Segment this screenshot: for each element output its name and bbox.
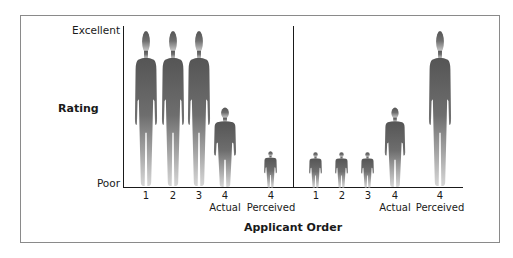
person-figure-right-4-perceived [427, 30, 453, 188]
y-axis-title: Rating [58, 102, 99, 115]
y-axis-top-label: Excellent [60, 24, 120, 36]
person-figure-right-3 [360, 152, 375, 188]
x-tick-right-4-actual: 4Actual [375, 190, 415, 214]
person-figure-left-4-perceived [263, 151, 278, 188]
x-axis-title: Applicant Order [243, 221, 343, 234]
person-figure-right-1 [308, 152, 323, 188]
x-tick-right-4-perceived: 4Perceived [414, 190, 466, 214]
person-figure-right-4-actual [383, 107, 407, 188]
person-figure-right-2 [334, 152, 349, 188]
x-tick-left-4-actual: 4Actual [205, 190, 245, 214]
y-axis-line [123, 26, 124, 188]
person-figure-left-1 [133, 30, 159, 188]
person-figure-left-2 [160, 30, 186, 188]
panel-divider-line [293, 26, 294, 188]
person-figure-left-4-actual [212, 107, 238, 188]
y-axis-bottom-label: Poor [60, 177, 120, 189]
x-tick-left-4-perceived: 4Perceived [245, 190, 297, 214]
person-figure-left-3 [186, 30, 212, 188]
